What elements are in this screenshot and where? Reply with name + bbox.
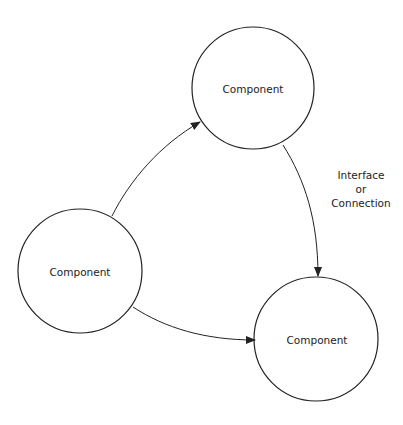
component-label-left: Component [50,266,111,278]
edge-label-line-3: Connection [331,196,390,210]
edge-left-to-bottom-right[interactable] [133,307,255,340]
edge-label-line-2: or [331,182,390,196]
component-label-bottom-right: Component [287,334,348,346]
edge-label-interface: Interface or Connection [331,168,390,210]
edge-top-to-bottom-right[interactable] [283,145,318,276]
component-diagram [0,0,403,425]
edge-label-line-1: Interface [331,168,390,182]
edge-left-to-top[interactable] [112,122,200,216]
component-label-top: Component [223,83,284,95]
